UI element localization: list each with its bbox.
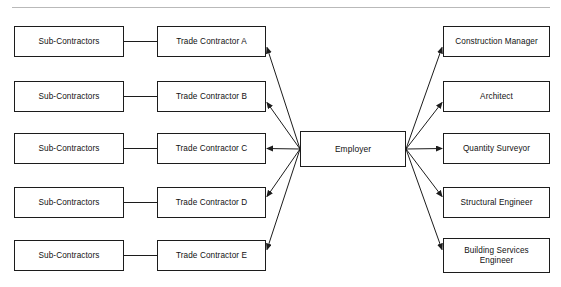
arrow-employer-to-consultant-4: [406, 149, 442, 197]
node-label: Trade Contractor E: [176, 251, 247, 261]
node-consultant-1-construction-manager: Construction Manager: [443, 26, 550, 57]
node-label: Sub-Contractors: [38, 92, 99, 102]
arrow-employer-to-consultant-2: [406, 103, 442, 150]
node-label: Architect: [480, 92, 513, 102]
node-label: Quantity Surveyor: [463, 144, 530, 154]
node-label: Trade Contractor C: [176, 144, 248, 154]
node-label: Sub-Contractors: [38, 251, 99, 261]
node-label: Sub-Contractors: [38, 198, 99, 208]
node-consultant-2-architect: Architect: [443, 81, 550, 112]
node-consultant-4-structural-engineer: Structural Engineer: [443, 187, 550, 218]
node-trade-contractor-5-trade-contractor-e: Trade Contractor E: [157, 240, 266, 271]
sub-to-trade-links: [124, 42, 157, 256]
node-trade-contractor-2-trade-contractor-b: Trade Contractor B: [157, 81, 266, 112]
node-label: Employer: [335, 144, 371, 154]
arrow-employer-to-consultant-5: [406, 149, 442, 250]
node-consultant-5-building-services-engineer: Building Services Engineer: [443, 238, 550, 273]
node-label: Structural Engineer: [461, 198, 533, 208]
arrow-employer-to-consultant-1: [406, 48, 442, 150]
node-label: Trade Contractor B: [176, 92, 247, 102]
diagram-canvas: Sub-ContractorsSub-ContractorsSub-Contra…: [0, 0, 561, 287]
node-trade-contractor-4-trade-contractor-d: Trade Contractor D: [157, 187, 266, 218]
arrow-employer-to-trade-1: [267, 48, 300, 150]
arrow-employer-to-trade-3: [267, 149, 300, 150]
node-label: Building Services Engineer: [447, 246, 546, 266]
employer-to-trade-arrows: [267, 48, 300, 250]
node-subcontractor-3-sub-contractors: Sub-Contractors: [14, 133, 124, 164]
employer-to-consultant-arrows: [406, 48, 442, 250]
node-consultant-3-quantity-surveyor: Quantity Surveyor: [443, 133, 550, 164]
node-label: Sub-Contractors: [38, 144, 99, 154]
node-employer-employer: Employer: [300, 131, 406, 167]
node-label: Trade Contractor A: [176, 37, 247, 47]
node-subcontractor-2-sub-contractors: Sub-Contractors: [14, 81, 124, 112]
node-subcontractor-1-sub-contractors: Sub-Contractors: [14, 26, 124, 57]
node-trade-contractor-1-trade-contractor-a: Trade Contractor A: [157, 26, 266, 57]
node-label: Trade Contractor D: [176, 198, 248, 208]
arrow-employer-to-trade-4: [267, 149, 300, 197]
node-label: Sub-Contractors: [38, 37, 99, 47]
node-label: Construction Manager: [455, 37, 538, 47]
node-subcontractor-5-sub-contractors: Sub-Contractors: [14, 240, 124, 271]
node-subcontractor-4-sub-contractors: Sub-Contractors: [14, 187, 124, 218]
arrow-employer-to-trade-2: [267, 103, 300, 150]
arrow-employer-to-consultant-3: [406, 149, 442, 150]
node-trade-contractor-3-trade-contractor-c: Trade Contractor C: [157, 133, 266, 164]
arrow-employer-to-trade-5: [267, 149, 300, 250]
